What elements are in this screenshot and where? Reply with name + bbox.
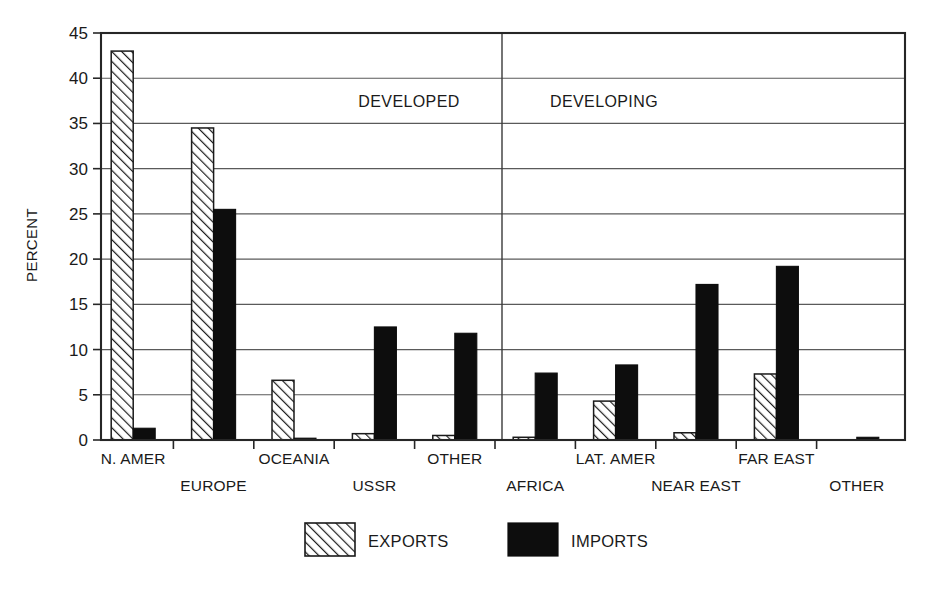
x-category-label: OTHER [427, 450, 482, 467]
bar-imports [616, 365, 638, 440]
x-category-label: AFRICA [506, 477, 565, 494]
legend-label-imports: IMPORTS [571, 532, 648, 550]
legend-swatch-imports[interactable] [508, 523, 558, 556]
y-tick-label: 40 [69, 69, 88, 88]
y-axis-ticks: 051015202530354045 [69, 24, 101, 450]
bar-exports [674, 433, 696, 440]
y-tick-label: 10 [69, 341, 88, 360]
x-category-label: OCEANIA [258, 450, 330, 467]
bar-imports [535, 373, 557, 440]
bar-imports [696, 284, 718, 440]
y-tick-label: 35 [69, 114, 88, 133]
x-axis-ticks [173, 440, 816, 449]
legend: EXPORTS IMPORTS [305, 523, 648, 556]
legend-swatch-exports[interactable] [305, 523, 355, 556]
y-tick-label: 30 [69, 160, 88, 179]
bar-imports [133, 428, 155, 440]
bar-exports [272, 380, 294, 440]
category-labels: N. AMEREUROPEOCEANIAUSSROTHERAFRICALAT. … [101, 450, 885, 494]
bar-imports [214, 209, 236, 440]
bar-chart: 051015202530354045 N. AMEREUROPEOCEANIAU… [0, 0, 928, 589]
y-tick-label: 20 [69, 250, 88, 269]
y-tick-label: 5 [79, 386, 88, 405]
bar-imports [455, 333, 477, 440]
y-tick-label: 15 [69, 295, 88, 314]
bar-imports [776, 266, 798, 440]
x-category-label: USSR [352, 477, 396, 494]
bar-exports [111, 51, 133, 440]
annotation-developing: DEVELOPING [550, 93, 658, 110]
chart-canvas: 051015202530354045 N. AMEREUROPEOCEANIAU… [0, 0, 928, 589]
legend-label-exports: EXPORTS [368, 532, 449, 550]
y-tick-label: 25 [69, 205, 88, 224]
x-category-label: OTHER [829, 477, 884, 494]
y-tick-label: 0 [79, 431, 88, 450]
bar-exports [594, 401, 616, 440]
y-axis-title: PERCENT [23, 208, 40, 282]
x-category-label: FAR EAST [738, 450, 815, 467]
x-category-label: LAT. AMER [576, 450, 656, 467]
x-category-label: NEAR EAST [651, 477, 741, 494]
x-category-label: N. AMER [101, 450, 166, 467]
bar-exports [754, 374, 776, 440]
bar-exports [192, 128, 214, 440]
annotation-developed: DEVELOPED [358, 93, 459, 110]
x-category-label: EUROPE [180, 477, 247, 494]
bar-imports [374, 327, 396, 440]
y-tick-label: 45 [69, 24, 88, 43]
